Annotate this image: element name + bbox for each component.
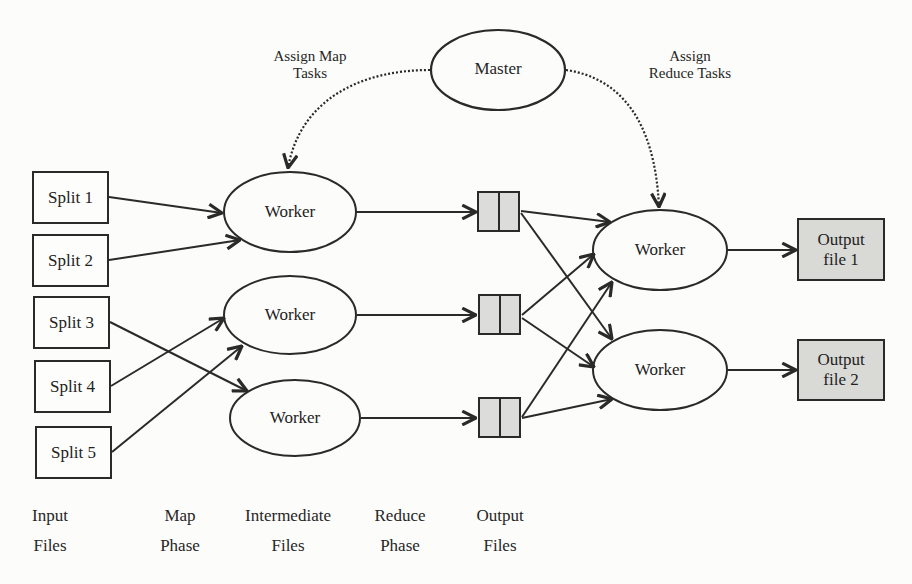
intermediate-partition xyxy=(480,296,499,333)
phase-line2: Files xyxy=(238,531,338,561)
phase-map: Map Phase xyxy=(145,501,215,561)
assign-map-line1: Assign Map xyxy=(255,48,365,65)
assign-reduce-tasks-label: Assign Reduce Tasks xyxy=(625,48,755,83)
assign-map-tasks-label: Assign Map Tasks xyxy=(255,48,365,83)
assign-reduce-line2: Reduce Tasks xyxy=(625,65,755,82)
assign-reduce-dotted-arrow xyxy=(566,70,659,207)
input-split-5: Split 5 xyxy=(35,426,112,479)
intermediate-file-1 xyxy=(477,191,520,232)
reduce-worker-2-label: Worker xyxy=(593,330,727,410)
intermediate-partition xyxy=(499,399,520,436)
split-label: Split 5 xyxy=(51,443,96,463)
phase-output-files: Output Files xyxy=(465,501,535,561)
map-worker-3-label: Worker xyxy=(230,380,360,456)
phase-line1: Intermediate xyxy=(238,501,338,531)
output-file-1: Output file 1 xyxy=(797,218,885,281)
assign-map-dotted-arrow xyxy=(288,70,430,168)
phase-line2: Files xyxy=(20,531,80,561)
phase-reduce: Reduce Phase xyxy=(365,501,435,561)
input-split-4: Split 4 xyxy=(34,360,111,413)
split-label: Split 3 xyxy=(49,313,94,333)
map-output-edges xyxy=(356,212,476,418)
phase-line2: Phase xyxy=(145,531,215,561)
output-file-line2: file 1 xyxy=(823,250,858,270)
intermediate-partition xyxy=(498,193,519,230)
assign-reduce-line1: Assign xyxy=(625,48,755,65)
output-file-line1: Output xyxy=(817,230,864,250)
split-label: Split 4 xyxy=(50,377,95,397)
phase-line1: Reduce xyxy=(365,501,435,531)
input-split-3: Split 3 xyxy=(33,296,110,349)
output-file-line2: file 2 xyxy=(823,370,858,390)
reduce-output-edges xyxy=(727,250,796,370)
split-label: Split 1 xyxy=(48,188,93,208)
intermediate-partition xyxy=(479,193,498,230)
input-split-1: Split 1 xyxy=(32,171,109,224)
phase-line1: Output xyxy=(465,501,535,531)
output-file-2: Output file 2 xyxy=(797,339,885,401)
map-worker-1-label: Worker xyxy=(224,172,356,252)
intermediate-partition xyxy=(480,399,499,436)
split-label: Split 2 xyxy=(48,251,93,271)
phase-intermediate-files: Intermediate Files xyxy=(238,501,338,561)
intermediate-file-2 xyxy=(478,294,521,335)
mapreduce-diagram xyxy=(0,0,912,584)
input-split-2: Split 2 xyxy=(32,234,109,287)
phase-input-files: Input Files xyxy=(20,501,80,561)
phase-line1: Map xyxy=(145,501,215,531)
intermediate-partition xyxy=(499,296,520,333)
phase-line2: Files xyxy=(465,531,535,561)
map-worker-2-label: Worker xyxy=(224,276,356,354)
assign-map-line2: Tasks xyxy=(255,65,365,82)
reduce-worker-1-label: Worker xyxy=(593,210,727,290)
phase-line1: Input xyxy=(20,501,80,531)
intermediate-file-3 xyxy=(478,397,521,438)
phase-line2: Phase xyxy=(365,531,435,561)
master-label: Master xyxy=(448,59,548,79)
output-file-line1: Output xyxy=(817,350,864,370)
